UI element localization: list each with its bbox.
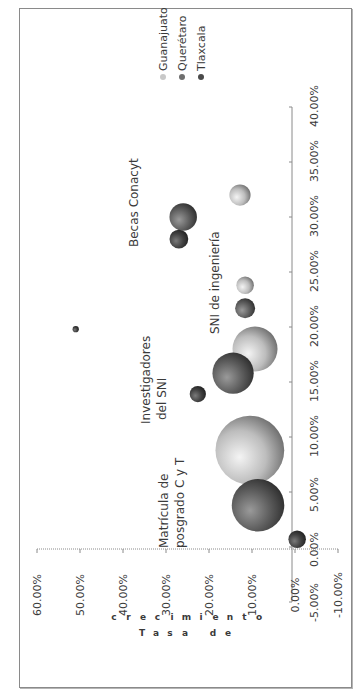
annotation-matricula-line2: posgrado C y T [173,457,187,548]
legend: GuanajuatoQuerétaroTlaxcala [157,7,208,80]
bubble-chart: -5.00%0.00%5.00%10.00%15.00%20.00%25.00%… [0,0,361,697]
x-tick-label: 25.00% [308,250,321,292]
svg-text:t: t [242,612,247,622]
y-tick-label: 20.00% [203,574,216,616]
svg-text:o: o [256,612,262,622]
y-tick-label: 30.00% [160,574,173,616]
y-tick-label: 10.00% [246,574,259,616]
y-tick-label: 0.00% [289,578,302,613]
x-tick-label: 35.00% [308,140,321,182]
y-tick-label: -10.00% [332,572,345,618]
svg-text:e: e [140,612,146,622]
legend-marker-icon [160,74,166,80]
svg-text:m: m [182,612,191,622]
svg-text:a: a [153,628,159,638]
svg-text:i: i [199,612,202,622]
legend-marker-icon [198,74,204,80]
bubble-guanajuato [236,276,254,294]
bubble-tlaxcala [190,386,206,402]
y-axis: -10.00%0.00%10.00%20.00%30.00%40.00%50.0… [31,549,345,618]
bubble-tlaxcala [288,531,306,549]
bubble-quertaro [169,203,197,231]
legend-marker-icon [179,74,185,80]
svg-text:n: n [227,612,233,622]
annotation-sni-ingenieria: SNI de ingeniería [208,231,222,334]
bubble-guanajuato [229,184,250,205]
svg-text:i: i [170,612,173,622]
bubble-tlaxcala [170,230,189,249]
bubble-guanajuato [215,416,284,485]
x-tick-label: 15.00% [308,360,321,402]
svg-text:c: c [155,612,160,622]
x-tick-label: 0.00% [308,532,321,567]
y-tick-label: 50.00% [74,574,87,616]
svg-text:T: T [139,628,146,638]
svg-text:e: e [212,612,218,622]
y-axis-title: crecimiento Tasade [111,612,262,638]
svg-text:r: r [126,612,131,622]
x-tick-label: 30.00% [308,195,321,237]
svg-text:a: a [182,628,188,638]
x-tick-label: 20.00% [308,305,321,347]
annotation-investigadores-line1: Investigadores [139,336,153,424]
svg-text:s: s [167,628,172,638]
bubbles-layer [73,184,306,548]
annotation-becas-conacyt: Becas Conacyt [127,158,141,247]
annotation-investigadores-line2: del SNI [155,378,169,420]
legend-item: Guanajuato [157,7,170,71]
bubble-quertaro [212,353,253,394]
legend-item: Querétaro [176,15,189,71]
y-tick-label: 40.00% [117,574,130,616]
y-tick-label: 60.00% [31,574,44,616]
svg-text:c: c [111,612,116,622]
x-tick-label: 40.00% [308,85,321,127]
x-tick-label: 5.00% [308,477,321,512]
x-tick-label: 10.00% [308,415,321,457]
annotation-matricula-line1: Matrícula de [157,474,171,548]
legend-item: Tlaxcala [195,26,208,72]
bubble-quertaro [232,479,285,532]
bubble-quertaro [235,298,255,318]
bubble-tlaxcala [73,326,79,332]
x-tick-label: -5.00% [308,583,321,622]
svg-text:e: e [225,628,231,638]
svg-text:d: d [210,628,216,638]
